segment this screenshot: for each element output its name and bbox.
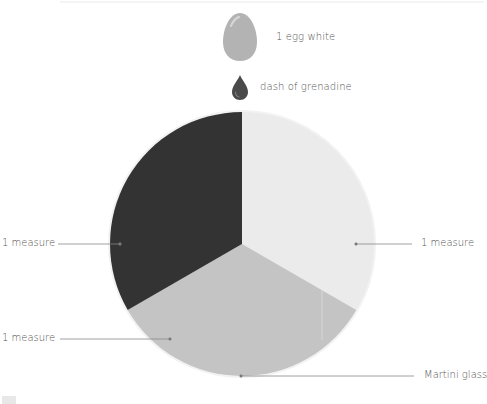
glass-label: Martini glass — [424, 369, 487, 381]
slice-label-left: 1 measure — [2, 237, 55, 249]
legend-swatch — [2, 396, 16, 404]
legend — [2, 394, 24, 404]
slice-label-right: 1 measure — [421, 237, 474, 249]
slice-label-bottom-left: 1 measure — [2, 332, 55, 344]
